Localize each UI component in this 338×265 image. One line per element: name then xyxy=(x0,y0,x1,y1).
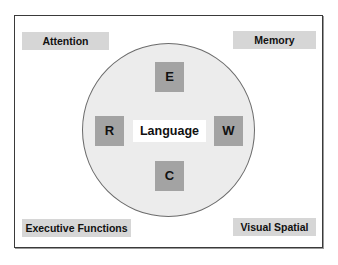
visual-spatial-label: Visual Spatial xyxy=(233,218,316,236)
skill-box-w: W xyxy=(214,116,243,146)
memory-label: Memory xyxy=(233,31,316,49)
skill-box-e: E xyxy=(155,62,184,92)
skill-box-r: R xyxy=(95,116,124,146)
language-label: Language xyxy=(133,120,206,142)
attention-label: Attention xyxy=(22,32,109,50)
skill-box-c: C xyxy=(155,161,184,191)
executive-functions-label: Executive Functions xyxy=(22,219,131,237)
